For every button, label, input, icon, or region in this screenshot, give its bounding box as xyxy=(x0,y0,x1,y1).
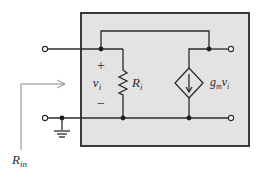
junction-node xyxy=(60,116,65,121)
vi-plus-label: + xyxy=(97,58,105,73)
input-terminal-top xyxy=(42,46,47,51)
output-terminal-top xyxy=(228,46,233,51)
junction-node xyxy=(99,47,104,52)
output-terminal-bottom xyxy=(228,115,233,120)
vi-minus-label: − xyxy=(97,96,105,111)
rin-label: Rin xyxy=(11,152,27,169)
circuit-diagram: + vi − Ri gmvi Rin xyxy=(0,0,264,181)
ground-icon xyxy=(54,131,70,137)
junction-node xyxy=(207,47,212,52)
junction-node xyxy=(187,116,192,121)
input-terminal-bottom xyxy=(42,115,47,120)
junction-node xyxy=(121,116,126,121)
